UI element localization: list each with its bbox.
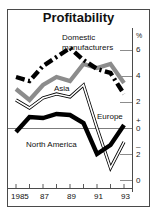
series-domestic-manufacturers xyxy=(16,48,124,94)
x-tick-label-1985: 1985 xyxy=(11,193,29,201)
y-tick-minus4: 0 xyxy=(136,177,140,185)
annotation-asia: Asia xyxy=(54,84,70,93)
y-tick-2: 2 xyxy=(136,98,140,106)
x-tick-label-93: 93 xyxy=(121,193,130,201)
annotation-domestic-line1: Domestic xyxy=(62,33,95,42)
y-tick-minus2: 2 xyxy=(136,151,140,159)
x-ticks xyxy=(16,184,124,188)
annotation-domestic-line2: manufacturers xyxy=(62,43,113,52)
y-axis-unit: % xyxy=(136,32,142,40)
series-asia xyxy=(16,64,124,100)
x-tick-label-91: 91 xyxy=(94,193,103,201)
annotation-europe: Europe xyxy=(97,112,123,121)
chart-canvas xyxy=(8,28,149,206)
y-tick-4: 4 xyxy=(136,72,140,80)
x-tick-label-89: 89 xyxy=(67,193,76,201)
chart-figure: Profitability xyxy=(0,0,157,216)
chart-title: Profitability xyxy=(8,10,149,25)
y-tick-6: 6 xyxy=(136,46,140,54)
x-tick-label-87: 87 xyxy=(40,193,49,201)
plot-area xyxy=(8,28,149,206)
annotation-north-america: North America xyxy=(26,140,77,149)
y-tick-0: 0 xyxy=(136,125,140,133)
